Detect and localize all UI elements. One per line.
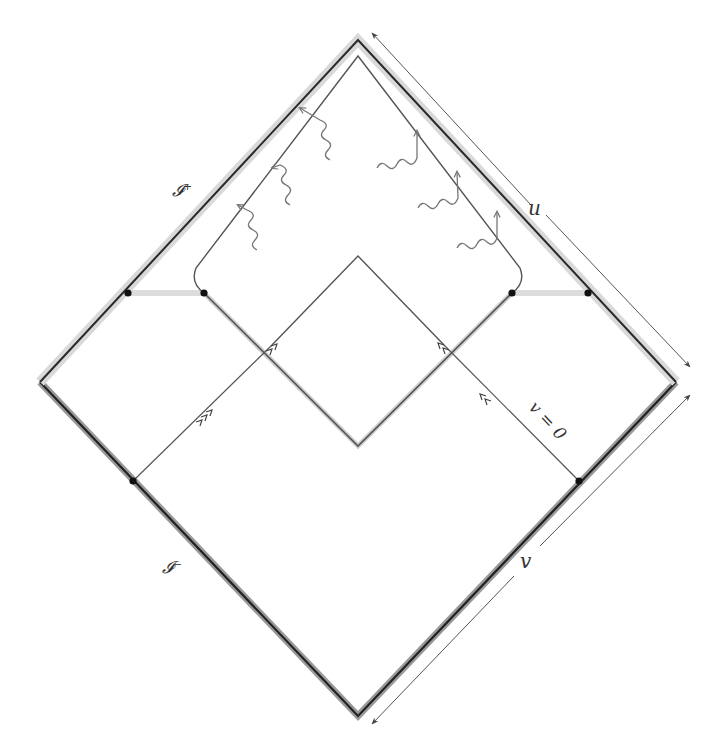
wave-icon: [418, 172, 458, 209]
dot-outer-right-upper: [584, 289, 591, 296]
dot-outer-left-upper: [124, 289, 131, 296]
wave-icon: [238, 205, 258, 250]
past-null-infinity: [40, 382, 676, 716]
light-ray-left: [133, 344, 277, 481]
future-null-infinity: [40, 40, 676, 382]
dot-outer-left-lower: [129, 477, 136, 484]
v-label: v: [520, 549, 532, 573]
inner-cap-boundary: [194, 56, 522, 293]
scri-plus-label: 𝓘⁺: [172, 180, 192, 200]
v-zero-label: v = 0: [525, 397, 571, 444]
penrose-diagram: u v 𝓘⁺ 𝓘⁻ v = 0: [0, 0, 718, 746]
wave-icon: [377, 131, 417, 169]
u-coordinate-arrow: u: [372, 33, 690, 367]
dot-cap-right: [508, 289, 515, 296]
event-points: [124, 289, 591, 484]
wave-icon: [300, 108, 331, 160]
dot-outer-right-lower: [575, 477, 582, 484]
light-ray-right: [438, 343, 579, 481]
radiation-quanta-left: [238, 108, 331, 250]
inner-diamond: [204, 256, 512, 446]
dot-cap-left: [200, 289, 207, 296]
u-label: u: [528, 196, 541, 220]
scri-minus-label: 𝓘⁻: [162, 557, 182, 577]
wave-icon: [272, 165, 291, 205]
v-coordinate-arrow: v: [372, 395, 690, 724]
